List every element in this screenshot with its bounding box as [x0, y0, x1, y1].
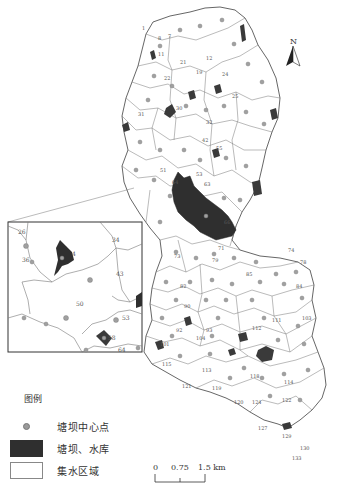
svg-text:32: 32 [206, 119, 212, 125]
svg-text:31: 31 [138, 111, 144, 117]
svg-text:130: 130 [300, 445, 310, 451]
svg-text:129: 129 [282, 433, 292, 439]
scale-tick-2: 1.5 km [198, 463, 226, 472]
svg-text:78: 78 [300, 259, 306, 265]
svg-text:101: 101 [160, 341, 170, 347]
svg-text:103: 103 [302, 315, 312, 321]
scale-bar [155, 474, 205, 482]
legend-label: 塘坝、水库 [57, 441, 110, 456]
svg-text:8: 8 [158, 35, 161, 41]
north-arrow-icon [286, 46, 300, 66]
svg-text:111: 111 [272, 317, 282, 323]
legend-item-catchment: 集水区域 [10, 461, 140, 480]
svg-text:93: 93 [206, 327, 212, 333]
svg-text:82: 82 [180, 283, 186, 289]
svg-text:21: 21 [180, 59, 186, 65]
svg-text:104: 104 [196, 335, 206, 341]
svg-text:120: 120 [234, 399, 244, 405]
svg-text:113: 113 [202, 367, 212, 373]
north-label: N [290, 37, 297, 46]
svg-text:7: 7 [168, 33, 171, 39]
svg-text:4: 4 [72, 250, 76, 257]
svg-text:112: 112 [252, 325, 262, 331]
svg-text:66: 66 [224, 219, 230, 225]
svg-text:42: 42 [202, 137, 208, 143]
svg-text:133: 133 [292, 455, 302, 461]
svg-text:24: 24 [222, 71, 228, 77]
svg-text:74: 74 [288, 247, 294, 253]
svg-text:73: 73 [174, 253, 180, 259]
svg-text:114: 114 [284, 379, 294, 385]
svg-text:119: 119 [212, 385, 222, 391]
svg-text:64: 64 [118, 346, 126, 353]
svg-text:22: 22 [164, 75, 170, 81]
svg-text:127: 127 [258, 425, 268, 431]
svg-text:71: 71 [218, 245, 224, 251]
svg-text:92: 92 [176, 327, 182, 333]
svg-text:51: 51 [160, 167, 166, 173]
svg-text:63: 63 [204, 181, 210, 187]
pond-center-dot-icon [10, 418, 43, 435]
svg-text:53: 53 [122, 314, 130, 321]
svg-text:30: 30 [176, 105, 182, 111]
inset-map: 26 36 4 34 43 50 53 58 64 [8, 222, 142, 353]
svg-text:34: 34 [112, 236, 120, 243]
svg-text:19: 19 [196, 69, 202, 75]
svg-text:84: 84 [296, 283, 302, 289]
legend: 图例 塘坝中心点 塘坝、水库 集水区域 [10, 392, 140, 483]
legend-item-pond-reservoir: 塘坝、水库 [10, 439, 140, 458]
svg-text:36: 36 [22, 256, 30, 263]
svg-text:118: 118 [250, 373, 260, 379]
legend-label: 塘坝中心点 [57, 419, 110, 434]
white-fill-swatch-icon [10, 462, 43, 479]
svg-text:90: 90 [184, 303, 190, 309]
svg-text:58: 58 [108, 334, 116, 341]
svg-text:79: 79 [212, 257, 218, 263]
legend-title: 图例 [24, 392, 140, 405]
svg-text:25: 25 [232, 93, 238, 99]
svg-text:64: 64 [172, 179, 178, 185]
svg-text:11: 11 [158, 51, 164, 57]
scale-tick-0: 0 [153, 463, 158, 472]
legend-label: 集水区域 [57, 463, 99, 478]
svg-text:43: 43 [116, 270, 124, 277]
svg-text:122: 122 [282, 397, 292, 403]
legend-item-pond-center: 塘坝中心点 [10, 417, 140, 436]
svg-text:50: 50 [76, 300, 84, 307]
svg-text:1: 1 [142, 25, 145, 31]
svg-text:85: 85 [246, 271, 252, 277]
svg-text:121: 121 [182, 383, 192, 389]
scale-tick-1: 0.75 [171, 463, 189, 472]
svg-text:115: 115 [162, 361, 172, 367]
svg-text:53: 53 [196, 171, 202, 177]
svg-text:55: 55 [216, 145, 222, 151]
svg-text:12: 12 [206, 55, 212, 61]
dark-fill-swatch-icon [10, 440, 43, 457]
svg-text:124: 124 [252, 399, 262, 405]
svg-text:26: 26 [18, 228, 26, 235]
